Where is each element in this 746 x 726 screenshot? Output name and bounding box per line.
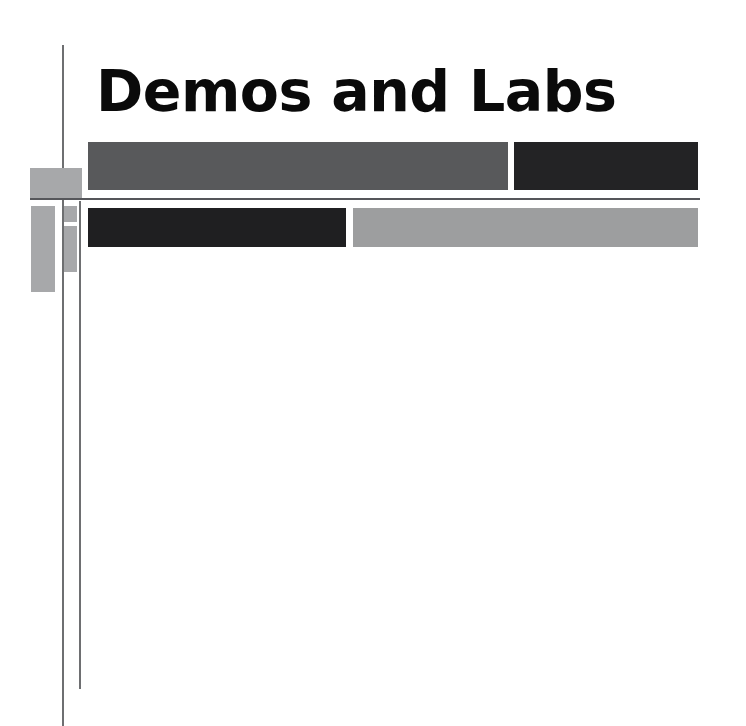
vertical-rule-secondary	[79, 201, 81, 689]
accent-block-small-square	[64, 206, 77, 222]
content-block-row1-right	[514, 142, 698, 190]
accent-block-top-wide	[30, 168, 82, 198]
horizontal-divider	[30, 198, 700, 200]
vertical-rule-primary	[62, 45, 64, 726]
content-block-row2-left	[88, 208, 346, 247]
accent-block-left-tall	[31, 206, 55, 292]
slide-canvas: Demos and Labs	[0, 0, 746, 726]
accent-block-small-tall	[64, 226, 77, 272]
content-block-row2-right	[353, 208, 698, 247]
page-title: Demos and Labs	[96, 58, 716, 124]
content-block-row1-left	[88, 142, 508, 190]
